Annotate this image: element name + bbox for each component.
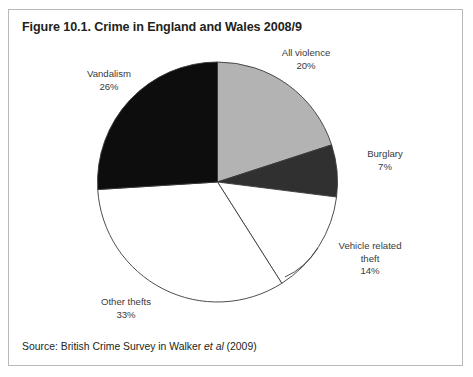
pie-label-vehicle-theft: Vehicle related theft 14% xyxy=(320,240,420,278)
source-italic: et al xyxy=(204,341,224,352)
pie-label-burglary-name: Burglary xyxy=(350,148,420,161)
pie-label-vehicle-theft-name2: theft xyxy=(320,253,420,266)
pie-label-burglary-pct: 7% xyxy=(350,161,420,174)
pie-label-vandalism-name: Vandalism xyxy=(62,68,156,81)
pie-slices xyxy=(98,62,338,302)
pie-label-all-violence-name: All violence xyxy=(259,47,353,60)
pie-label-burglary: Burglary 7% xyxy=(350,148,420,173)
pie-label-all-violence-pct: 20% xyxy=(259,60,353,73)
source-suffix: (2009) xyxy=(224,341,257,352)
pie-label-other-thefts: Other thefts 33% xyxy=(76,296,176,321)
pie-label-other-thefts-pct: 33% xyxy=(76,309,176,322)
pie-chart xyxy=(0,0,473,377)
figure-source-note: Source: British Crime Survey in Walker e… xyxy=(22,341,257,352)
pie-label-vehicle-theft-pct: 14% xyxy=(320,265,420,278)
source-prefix: Source: British Crime Survey in Walker xyxy=(22,341,204,352)
pie-label-vandalism-pct: 26% xyxy=(62,81,156,94)
pie-label-vehicle-theft-name: Vehicle related xyxy=(320,240,420,253)
pie-label-vandalism: Vandalism 26% xyxy=(62,68,156,93)
figure-panel: Figure 10.1. Crime in England and Wales … xyxy=(0,0,473,377)
pie-label-other-thefts-name: Other thefts xyxy=(76,296,176,309)
pie-label-all-violence: All violence 20% xyxy=(259,47,353,72)
